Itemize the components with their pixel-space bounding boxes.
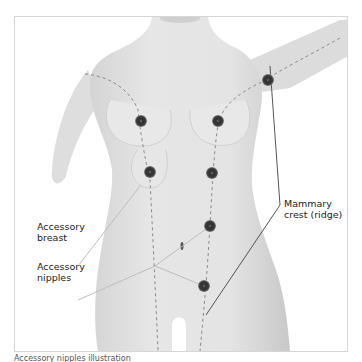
label-line: Mammary <box>284 198 342 209</box>
label-accessory-breast: Accessory breast <box>37 221 85 243</box>
label-line: Accessory <box>37 261 85 272</box>
label-mammary-crest: Mammary crest (ridge) <box>284 198 342 220</box>
label-line: nipples <box>37 272 85 283</box>
label-accessory-nipples: Accessory nipples <box>37 261 85 283</box>
label-line: Accessory <box>37 221 85 232</box>
label-line: breast <box>37 232 85 243</box>
label-line: crest (ridge) <box>284 209 342 220</box>
figure-caption: Accessory nipples illustration <box>14 354 131 362</box>
mammary-line-diagram <box>0 0 362 362</box>
